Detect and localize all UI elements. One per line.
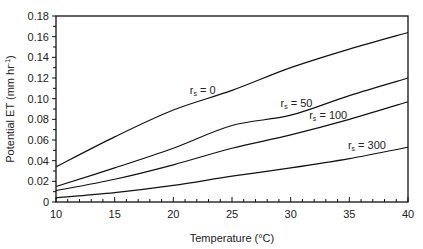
y-tick-label: 0.06 bbox=[28, 134, 49, 146]
series-label-0: rs = 0 bbox=[190, 84, 216, 97]
y-axis: 00.020.040.060.080.100.120.140.160.18 bbox=[28, 10, 56, 208]
series-label-1: rs = 50 bbox=[281, 97, 313, 110]
et-temperature-chart: 10152025303540 00.020.040.060.080.100.12… bbox=[0, 0, 423, 249]
x-tick-label: 30 bbox=[285, 208, 297, 220]
x-tick-label: 35 bbox=[343, 208, 355, 220]
y-tick-label: 0.12 bbox=[28, 72, 49, 84]
plot-frame bbox=[56, 16, 408, 202]
y-tick-label: 0.14 bbox=[28, 51, 49, 63]
y-axis-title: Potential ET (mm hr-1) bbox=[4, 55, 16, 163]
x-axis: 10152025303540 bbox=[50, 197, 414, 220]
x-tick-label: 10 bbox=[50, 208, 62, 220]
y-tick-label: 0.02 bbox=[28, 175, 49, 187]
y-tick-label: 0.08 bbox=[28, 113, 49, 125]
series-label-3: rs = 300 bbox=[348, 139, 386, 152]
y-tick-label: 0.04 bbox=[28, 155, 49, 167]
y-tick-label: 0.18 bbox=[28, 10, 49, 22]
x-axis-title: Temperature (°C) bbox=[190, 232, 274, 244]
x-tick-label: 15 bbox=[109, 208, 121, 220]
series-label-2: rs = 100 bbox=[309, 109, 347, 122]
x-tick-label: 20 bbox=[167, 208, 179, 220]
y-tick-label: 0.16 bbox=[28, 31, 49, 43]
x-tick-label: 25 bbox=[226, 208, 238, 220]
x-tick-label: 40 bbox=[402, 208, 414, 220]
y-tick-label: 0.10 bbox=[28, 93, 49, 105]
series-line-1 bbox=[56, 78, 408, 187]
series-lines bbox=[56, 33, 408, 198]
y-tick-label: 0 bbox=[43, 196, 49, 208]
series-line-3 bbox=[56, 147, 408, 198]
